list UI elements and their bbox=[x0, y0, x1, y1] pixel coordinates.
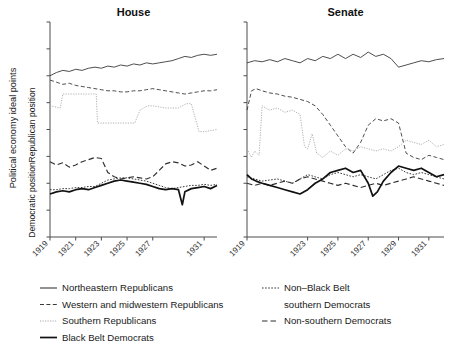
y-axis-outer-label: Political economy ideal points bbox=[8, 67, 18, 188]
panel-title-senate: Senate bbox=[327, 6, 363, 18]
y-axis-lower-label: Democratic position bbox=[27, 162, 37, 238]
series-line-northeastern-republicans bbox=[247, 52, 444, 67]
x-tick-label: 1921 bbox=[56, 239, 76, 259]
x-tick-label: 1929 bbox=[379, 239, 399, 259]
legend-label: Southern Republicans bbox=[62, 315, 157, 326]
legend-label: Non-southern Democrats bbox=[284, 315, 391, 326]
x-tick-label: 1927 bbox=[349, 239, 369, 259]
x-tick-label: 1931 bbox=[185, 239, 205, 259]
x-tick-label: 1927 bbox=[133, 239, 153, 259]
series-line-northeastern-republicans bbox=[50, 54, 217, 76]
series-line-southern-republicans bbox=[50, 94, 217, 132]
x-tick-label: 1923 bbox=[82, 239, 102, 259]
legend-label: Black Belt Democrats bbox=[62, 332, 154, 343]
x-tick-label: 1931 bbox=[410, 239, 430, 259]
panel-title-house: House bbox=[117, 6, 151, 18]
x-tick-label: 1923 bbox=[288, 239, 308, 259]
x-tick-label: 1925 bbox=[319, 239, 339, 259]
y-axis-upper-label: Republican position bbox=[27, 87, 37, 162]
legend-label: Northeastern Republicans bbox=[62, 282, 173, 293]
x-tick-label: 1919 bbox=[31, 239, 51, 259]
legend-label: Non–Black Belt bbox=[284, 282, 350, 293]
legend-label: Western and midwestern Republicans bbox=[62, 299, 224, 310]
figure-root: 191919211923192519271931House19191923192… bbox=[0, 0, 453, 344]
x-tick-label: 1919 bbox=[228, 239, 248, 259]
series-line-black-belt-democrats bbox=[247, 166, 444, 196]
chart-svg: 191919211923192519271931House19191923192… bbox=[0, 0, 453, 344]
series-line-black-belt-democrats bbox=[50, 180, 217, 205]
series-line-western-and-midwestern-republicans bbox=[50, 80, 217, 94]
series-line-non-southern-democrats bbox=[50, 157, 217, 179]
series-line-non-southern-democrats bbox=[247, 177, 444, 188]
series-line-southern-republicans bbox=[247, 106, 444, 158]
legend-label-line2: southern Democrats bbox=[284, 299, 371, 310]
x-tick-label: 1925 bbox=[108, 239, 128, 259]
